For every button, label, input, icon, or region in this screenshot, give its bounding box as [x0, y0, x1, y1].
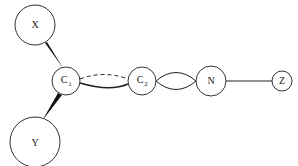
node-y-label: Y	[31, 137, 38, 148]
node-y: Y	[10, 117, 60, 166]
node-c1: C 1	[52, 67, 80, 95]
node-c2-label: C	[137, 74, 144, 85]
node-c1-label: C	[61, 74, 68, 85]
node-c2: C 2	[128, 67, 156, 95]
edge-c2-n-upper-arc	[156, 73, 196, 82]
edge-x-c1-wedge	[45, 42, 63, 68]
molecule-graph-diagram: X C 1 Y C 2 N Z	[0, 0, 298, 166]
node-c1-subscript: 1	[68, 80, 72, 88]
node-z: Z	[272, 71, 292, 91]
node-n: N	[196, 66, 226, 96]
node-z-label: Z	[279, 75, 285, 86]
node-n-label: N	[207, 75, 214, 86]
edge-y-c1-wedge	[42, 93, 62, 121]
edge-c2-n-lower-arc	[156, 81, 196, 90]
node-c2-subscript: 2	[144, 80, 148, 88]
edge-c1-c2-solid	[80, 83, 128, 88]
node-x: X	[15, 5, 55, 45]
node-x-label: X	[31, 19, 39, 30]
edge-c1-c2-dashed	[80, 75, 128, 80]
